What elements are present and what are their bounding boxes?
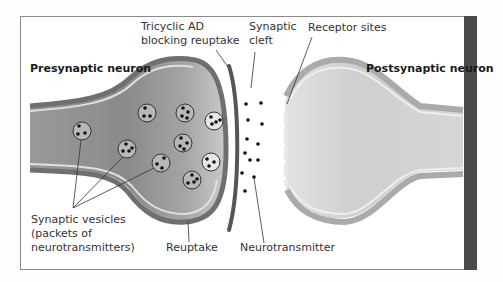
tricyclic-label-2: blocking reuptake xyxy=(141,34,240,47)
receptor-label: Receptor sites xyxy=(308,21,386,34)
tricyclic-label-1: Tricyclic AD xyxy=(141,20,204,33)
vesicles-label-2: (packets of xyxy=(31,227,92,240)
postsynaptic-neuron xyxy=(285,60,463,222)
neurotransmitter-dots xyxy=(240,101,264,193)
postsynaptic-label: Postsynaptic neuron xyxy=(366,62,494,75)
reuptake-blocker xyxy=(229,66,237,230)
cleft-label-2: cleft xyxy=(249,34,273,47)
neurotransmitter-label: Neurotransmitter xyxy=(240,241,335,254)
vesicles-label-1: Synaptic vesicles xyxy=(31,213,126,226)
reuptake-label: Reuptake xyxy=(166,241,218,254)
presynaptic-label: Presynaptic neuron xyxy=(30,62,151,75)
vesicles-label-3: neurotransmitters) xyxy=(31,241,135,254)
cleft-label-1: Synaptic xyxy=(249,20,297,33)
